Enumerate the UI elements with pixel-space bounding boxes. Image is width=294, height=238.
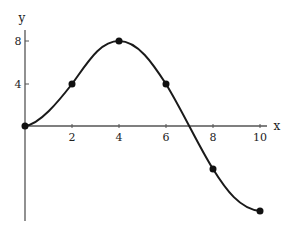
y-tick-label-4: 4 bbox=[15, 78, 22, 91]
data-point-8 bbox=[210, 166, 217, 173]
data-point-10 bbox=[257, 208, 264, 215]
x-tick-label-4: 4 bbox=[116, 131, 123, 144]
y-tick-label-8: 8 bbox=[15, 35, 22, 48]
y-tick-labels: 4 8 bbox=[15, 35, 22, 91]
data-point-4 bbox=[116, 38, 123, 45]
x-tick-label-6: 6 bbox=[163, 131, 170, 144]
x-axis-label: x bbox=[274, 119, 281, 133]
data-point-0 bbox=[22, 123, 29, 130]
x-tick-label-8: 8 bbox=[210, 131, 217, 144]
data-point-2 bbox=[69, 81, 76, 88]
data-point-6 bbox=[163, 81, 170, 88]
x-tick-labels: 2 4 6 8 10 bbox=[69, 131, 268, 144]
x-tick-label-10: 10 bbox=[253, 131, 267, 144]
chart-canvas: 2 4 6 8 10 4 8 x y bbox=[0, 0, 294, 238]
x-tick-label-2: 2 bbox=[69, 131, 76, 144]
y-axis-label: y bbox=[18, 11, 26, 25]
